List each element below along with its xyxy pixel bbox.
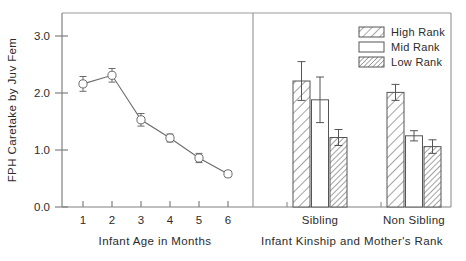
left-panel-line-chart: 1 2 3 4 5 6 xyxy=(79,69,232,248)
bar-non-sibling-high-rank xyxy=(387,92,404,207)
y-tick-labels: 0.0 1.0 2.0 3.0 xyxy=(34,30,50,213)
left-x-axis-ticks xyxy=(83,201,228,207)
legend-item-high-rank: High Rank xyxy=(359,26,445,38)
right-panel-bar-chart: Sibling Non Sibling Infant Kinship and M… xyxy=(261,26,445,247)
x-tick-2: 2 xyxy=(109,214,115,226)
left-x-tick-labels: 1 2 3 4 5 6 xyxy=(80,214,231,226)
legend-item-mid-rank: Mid Rank xyxy=(359,41,440,53)
y-axis-label: FPH Caretake by Juv Fem xyxy=(6,38,18,183)
figure-container: FPH Caretake by Juv Fem 0.0 1.0 2.0 3.0 xyxy=(0,0,466,261)
right-x-axis-label: Infant Kinship and Mother's Rank xyxy=(261,235,443,247)
legend-swatch-high-rank xyxy=(359,27,384,37)
data-points xyxy=(79,69,232,178)
x-tick-5: 5 xyxy=(196,214,202,226)
bar-group-sibling xyxy=(293,62,347,207)
bar-non-sibling-low-rank xyxy=(424,147,441,207)
legend-item-low-rank: Low Rank xyxy=(359,56,443,68)
x-tick-4: 4 xyxy=(167,214,174,226)
legend-label-mid-rank: Mid Rank xyxy=(391,41,440,53)
group-label-non-sibling: Non Sibling xyxy=(383,214,445,226)
y-tick-2: 2.0 xyxy=(34,87,50,99)
left-x-axis-label: Infant Age in Months xyxy=(99,235,212,247)
legend-label-low-rank: Low Rank xyxy=(391,56,443,68)
legend-label-high-rank: High Rank xyxy=(391,26,445,38)
data-line xyxy=(83,75,228,174)
x-tick-6: 6 xyxy=(225,214,231,226)
y-tick-1: 1.0 xyxy=(34,144,50,156)
legend-swatch-low-rank xyxy=(359,57,384,67)
bar-non-sibling-mid-rank xyxy=(406,136,423,207)
x-tick-3: 3 xyxy=(138,214,144,226)
y-axis xyxy=(55,13,68,207)
group-label-sibling: Sibling xyxy=(302,214,339,226)
bar-group-non-sibling xyxy=(387,84,441,207)
bar-sibling-low-rank xyxy=(330,138,347,208)
legend-swatch-mid-rank xyxy=(359,42,384,52)
figure-svg: FPH Caretake by Juv Fem 0.0 1.0 2.0 3.0 xyxy=(0,0,466,261)
y-tick-0: 0.0 xyxy=(34,201,50,213)
legend: High Rank Mid Rank Low Rank xyxy=(359,26,445,68)
x-tick-1: 1 xyxy=(80,214,86,226)
y-tick-3: 3.0 xyxy=(34,30,50,42)
